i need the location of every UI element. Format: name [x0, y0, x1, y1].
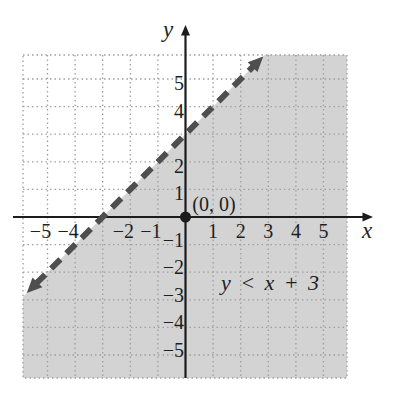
y-tick-label-5: 5 — [174, 73, 184, 93]
y-tick-label--1: −1 — [163, 230, 184, 250]
x-axis-label: x — [362, 219, 372, 243]
y-tick-label-2: 2 — [174, 156, 184, 176]
y-tick-label--5: −5 — [163, 340, 184, 360]
origin-point-dot — [180, 212, 191, 223]
y-tick-label--3: −3 — [163, 285, 184, 305]
inequality-region-label: y < x + 3 — [221, 270, 319, 296]
origin-point-label: (0, 0) — [192, 193, 235, 215]
y-tick-label--2: −2 — [163, 257, 184, 277]
x-tick-label-5: 5 — [304, 221, 344, 241]
y-tick-label-1: 1 — [174, 183, 184, 203]
y-tick-label-4: 4 — [174, 101, 184, 121]
inequality-graph-figure: y x (0, 0) y < x + 3 −5−4−2−1123455421−1… — [0, 0, 401, 399]
x-tick-label--4: −4 — [48, 221, 88, 241]
y-tick-label--4: −4 — [163, 312, 184, 332]
y-axis-label: y — [163, 18, 173, 42]
